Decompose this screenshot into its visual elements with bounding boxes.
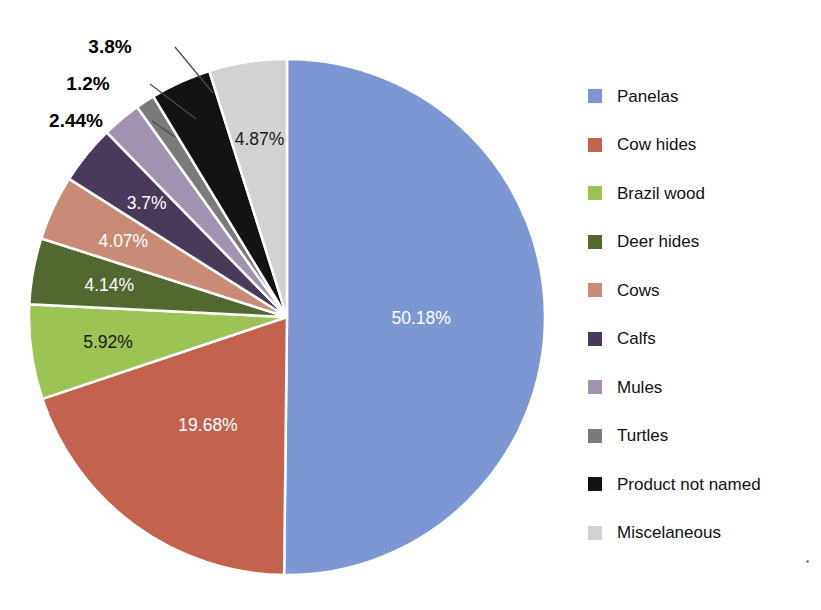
legend-item[interactable]: Product not named xyxy=(588,460,821,509)
legend-item-label: Brazil wood xyxy=(617,185,705,202)
legend-item[interactable]: Cow hides xyxy=(588,121,821,170)
slice-value-label: 4.87% xyxy=(235,128,285,149)
slice-value-label: 19.68% xyxy=(178,415,237,436)
legend-item[interactable]: Mules xyxy=(588,363,821,412)
slice-value-label: 4.14% xyxy=(84,274,134,295)
legend-item-label: Mules xyxy=(617,379,662,396)
page-artifact-dot xyxy=(806,560,809,563)
legend-item[interactable]: Turtles xyxy=(588,412,821,461)
legend-item[interactable]: Miscelaneous xyxy=(588,509,821,558)
slice-value-label: 3.7% xyxy=(127,193,167,214)
legend-swatch-icon xyxy=(588,283,602,297)
slice-value-label: 2.44% xyxy=(49,110,103,132)
slice-value-label: 5.92% xyxy=(83,331,133,352)
legend-swatch-icon xyxy=(588,477,602,491)
legend-swatch-icon xyxy=(588,526,602,540)
legend-item-label: Deer hides xyxy=(617,233,699,250)
pie-slice-group xyxy=(29,59,545,575)
legend-item[interactable]: Deer hides xyxy=(588,218,821,267)
chart-legend: PanelasCow hidesBrazil woodDeer hidesCow… xyxy=(588,72,821,557)
legend-swatch-icon xyxy=(588,89,602,103)
legend-item[interactable]: Panelas xyxy=(588,72,821,121)
slice-value-label: 1.2% xyxy=(66,73,109,95)
legend-swatch-icon xyxy=(588,380,602,394)
legend-item-label: Turtles xyxy=(617,427,668,444)
legend-item-label: Panelas xyxy=(617,88,678,105)
pie-chart-figure: 50.18%19.68%5.92%4.14%4.07%3.7%2.44%1.2%… xyxy=(0,0,821,610)
legend-item[interactable]: Brazil wood xyxy=(588,169,821,218)
legend-swatch-icon xyxy=(588,186,602,200)
legend-item[interactable]: Calfs xyxy=(588,315,821,364)
legend-item-label: Product not named xyxy=(617,476,761,493)
slice-value-label: 3.8% xyxy=(88,36,131,58)
legend-swatch-icon xyxy=(588,235,602,249)
legend-swatch-icon xyxy=(588,138,602,152)
legend-item-label: Cow hides xyxy=(617,136,696,153)
legend-swatch-icon xyxy=(588,332,602,346)
slice-value-label: 50.18% xyxy=(391,307,450,328)
legend-item-label: Calfs xyxy=(617,330,656,347)
legend-swatch-icon xyxy=(588,429,602,443)
pie-plot-area: 50.18%19.68%5.92%4.14%4.07%3.7%2.44%1.2%… xyxy=(0,0,570,610)
legend-item-label: Cows xyxy=(617,282,660,299)
slice-value-label: 4.07% xyxy=(99,230,149,251)
legend-item-label: Miscelaneous xyxy=(617,524,721,541)
legend-item[interactable]: Cows xyxy=(588,266,821,315)
